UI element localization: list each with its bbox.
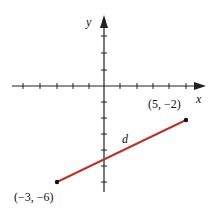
- point-neg3-neg6: [55, 180, 59, 184]
- y-axis-label: y: [85, 15, 92, 29]
- coordinate-diagram: y x d (5, −2) (−3, −6): [0, 0, 218, 212]
- x-arrow-icon: [194, 82, 206, 90]
- point-5-neg2: [184, 118, 188, 122]
- segment-d: [57, 120, 186, 182]
- y-arrow-icon: [100, 15, 108, 28]
- point-label-neg3-neg6: (−3, −6): [14, 190, 54, 204]
- point-label-5-neg2: (5, −2): [148, 97, 181, 111]
- x-axis-label: x: [195, 92, 202, 106]
- segment-label: d: [122, 132, 129, 146]
